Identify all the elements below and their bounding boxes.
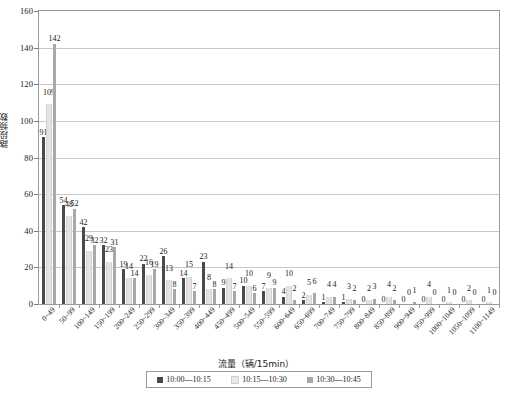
bar-slot: 29 xyxy=(86,11,93,304)
bar[interactable]: 14 xyxy=(182,278,186,304)
bar-slot: 19 xyxy=(152,11,157,304)
bar[interactable]: 52 xyxy=(73,209,77,304)
bar-slot: 9 xyxy=(266,11,273,304)
x-axis-tick-mark xyxy=(419,305,420,308)
x-axis-tick-mark xyxy=(99,305,100,308)
bar[interactable]: 16 xyxy=(146,275,152,304)
bar[interactable]: 1 xyxy=(486,302,492,304)
bar[interactable]: 14 xyxy=(226,278,232,304)
bar[interactable]: 8 xyxy=(173,289,177,304)
legend-item[interactable]: 10:30—10:45 xyxy=(307,376,360,384)
bar[interactable]: 9 xyxy=(266,288,272,304)
bar-slot: 1 xyxy=(446,11,453,304)
bar[interactable]: 2 xyxy=(393,300,397,304)
bar-slot: 142 xyxy=(52,11,57,304)
bar[interactable]: 54 xyxy=(62,205,66,304)
bar[interactable]: 31 xyxy=(113,247,117,304)
bar[interactable]: 2 xyxy=(366,300,372,304)
bar[interactable]: 15 xyxy=(186,277,192,304)
bar[interactable]: 14 xyxy=(126,278,132,304)
bar-slot: 1 xyxy=(486,11,493,304)
bar[interactable]: 91 xyxy=(42,137,46,304)
bar-slot: 23 xyxy=(106,11,113,304)
bar[interactable]: 14 xyxy=(133,278,137,304)
bar-slot: 6 xyxy=(252,11,257,304)
x-axis-tick-mark xyxy=(499,305,500,308)
bar[interactable]: 19 xyxy=(153,269,157,304)
bar[interactable]: 8 xyxy=(213,289,217,304)
bar[interactable]: 29 xyxy=(86,251,92,304)
bar-value-label: 8 xyxy=(213,281,217,289)
bar-value-label: 7 xyxy=(233,283,237,291)
bar[interactable]: 109 xyxy=(46,104,52,304)
bar-value-label: 9 xyxy=(267,272,271,280)
bar[interactable]: 9 xyxy=(222,288,226,304)
bar[interactable]: 22 xyxy=(142,264,146,304)
bar[interactable]: 32 xyxy=(93,245,97,304)
bar[interactable]: 23 xyxy=(106,262,112,304)
bar[interactable]: 19 xyxy=(122,269,126,304)
bar-value-label: 19 xyxy=(151,261,159,269)
bar[interactable]: 13 xyxy=(166,280,172,304)
bar[interactable]: 10 xyxy=(246,286,252,304)
bar-value-label: 3 xyxy=(347,283,351,291)
bar[interactable]: 3 xyxy=(346,299,352,304)
chart-legend: 10:00—10:1510:15—10:3010:30—10:45 xyxy=(146,371,372,388)
legend-item[interactable]: 10:00—10:15 xyxy=(157,376,210,384)
bar[interactable]: 7 xyxy=(262,291,266,304)
y-axis-tick-label: 160 xyxy=(1,7,33,15)
x-axis-tick-mark xyxy=(319,305,320,308)
bar[interactable]: 9 xyxy=(273,288,277,304)
bar[interactable]: 1 xyxy=(446,302,452,304)
bar[interactable]: 4 xyxy=(326,297,332,304)
bar[interactable]: 2 xyxy=(466,300,472,304)
bar[interactable]: 6 xyxy=(253,293,257,304)
bar[interactable]: 8 xyxy=(206,289,212,304)
legend-item[interactable]: 10:15—10:30 xyxy=(231,376,286,384)
bar-value-label: 4 xyxy=(387,281,391,289)
bar[interactable]: 4 xyxy=(333,297,337,304)
bar-value-label: 5 xyxy=(307,279,311,287)
bar-value-label: 9 xyxy=(273,279,277,287)
bar-value-label: 31 xyxy=(111,239,119,247)
bar-slot: 15 xyxy=(186,11,193,304)
bar[interactable]: 48 xyxy=(66,216,72,304)
bar-slot: 1 xyxy=(412,11,417,304)
y-axis-tick-label: 80 xyxy=(1,154,33,162)
bar-value-label: 0 xyxy=(473,289,477,297)
bar[interactable]: 10 xyxy=(242,286,246,304)
bar[interactable]: 7 xyxy=(233,291,237,304)
bar[interactable]: 4 xyxy=(386,297,392,304)
bar[interactable]: 6 xyxy=(313,293,317,304)
bar[interactable]: 2 xyxy=(302,300,306,304)
bar-group: 010 xyxy=(479,11,499,304)
bar-slot: 5 xyxy=(306,11,313,304)
legend-swatch xyxy=(231,376,239,384)
bar[interactable]: 1 xyxy=(413,302,417,304)
bar[interactable]: 10 xyxy=(286,286,292,304)
bar-group: 91109142 xyxy=(39,11,59,304)
bar-value-label: 2 xyxy=(353,285,357,293)
bar[interactable]: 2 xyxy=(353,300,357,304)
bar[interactable]: 4 xyxy=(426,297,432,304)
x-axis-title: 流量（辆/15min） xyxy=(0,357,512,370)
bar-group: 10106 xyxy=(239,11,259,304)
bar-group: 221619 xyxy=(139,11,159,304)
bar[interactable]: 3 xyxy=(373,299,377,304)
bar[interactable]: 4 xyxy=(282,297,286,304)
legend-label: 10:00—10:15 xyxy=(166,376,210,384)
bar[interactable]: 1 xyxy=(322,302,326,304)
bar[interactable]: 1 xyxy=(342,302,346,304)
bar[interactable]: 7 xyxy=(193,291,197,304)
x-axis-tick-mark xyxy=(119,305,120,308)
bar-value-label: 7 xyxy=(193,283,197,291)
bar[interactable]: 5 xyxy=(306,295,312,304)
bar-value-label: 32 xyxy=(91,237,99,245)
bar[interactable]: 142 xyxy=(53,44,57,304)
bar[interactable]: 23 xyxy=(202,262,206,304)
x-axis-tick-mark xyxy=(379,305,380,308)
x-axis-tick-mark xyxy=(239,305,240,308)
y-axis-tick-label: 40 xyxy=(1,227,33,235)
bar-value-label: 2 xyxy=(367,285,371,293)
bar[interactable]: 2 xyxy=(293,300,297,304)
